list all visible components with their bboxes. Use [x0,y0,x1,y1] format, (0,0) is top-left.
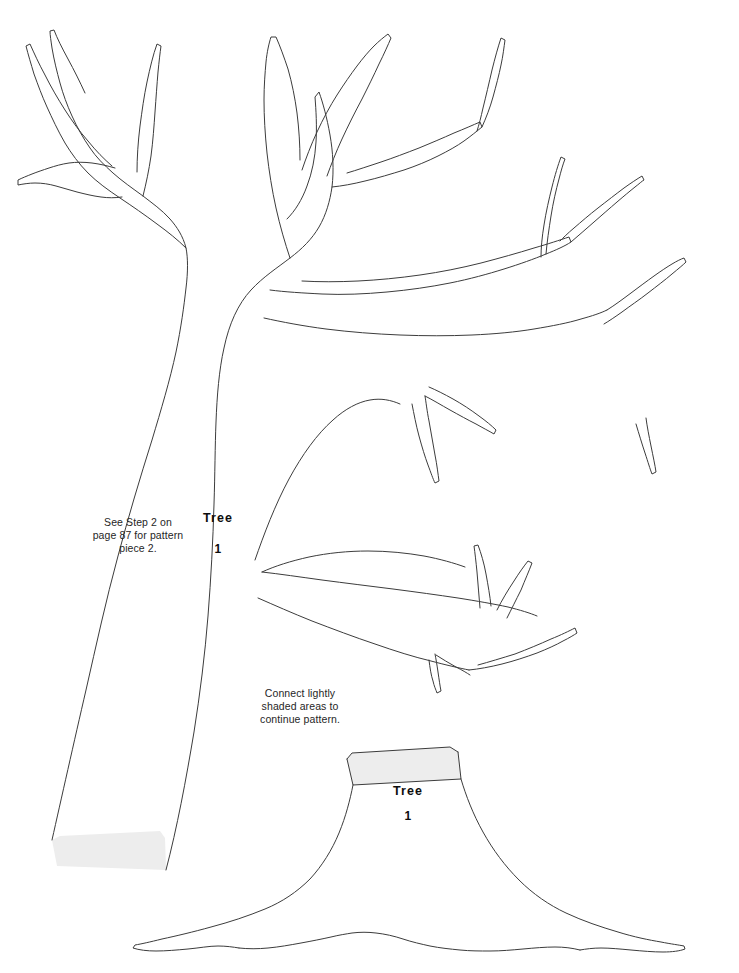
shaded-band-upper-piece [52,831,166,870]
branch-hanging-right-fork [425,387,496,434]
branch-lower-right-tip-a [469,628,577,670]
branch-right-vertical [477,38,505,131]
base-left-outline [133,785,353,951]
piece-2-number: 1 [368,809,448,824]
branch-lower-drop [429,654,441,693]
branch-right-horizontal-upper [270,237,571,294]
pattern-page: See Step 2 on page 87 for pattern piece … [0,0,739,973]
branch-lower-drop-fork [436,655,470,675]
canopy-outer-arc [262,551,465,572]
branch-right-fork-b [560,176,644,242]
base-right-outline [461,779,685,952]
branch-hanging-right [412,396,439,483]
piece-2-title: Tree [368,784,448,800]
branch-lower-right-lower [258,598,469,670]
branch-mid-left [137,44,161,196]
branch-upper-center-left [264,37,300,258]
branch-right-horizontal-lower [264,310,607,336]
branch-right-fork-c [604,258,686,324]
branch-upper-left-a [26,44,186,248]
branch-upper-right-main [332,122,482,187]
trunk-right-outline [166,92,333,870]
piece-1-number: 1 [178,542,258,557]
branch-lower-right-main [262,572,537,616]
note-connect-shaded-areas: Connect lightly shaded areas to continue… [215,687,385,726]
branch-right-droop [636,418,656,474]
canopy-inner-arc [255,399,400,560]
branch-lower-right-fork-up2 [497,561,532,618]
tree-piece-1-upper [18,30,686,870]
piece-1-title: Tree [178,511,258,527]
branch-lower-right-fork-up [474,545,491,608]
tree-pattern-artwork [0,0,739,973]
base-bottom-root-line [239,932,580,951]
